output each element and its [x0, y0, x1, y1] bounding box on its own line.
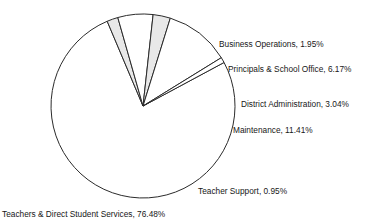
pie-label-teacher-support: Teacher Support, 0.95% — [198, 186, 288, 196]
pie-label-maintenance: Maintenance, 11.41% — [233, 125, 313, 135]
pie-label-teachers-direct-student-services: Teachers & Direct Student Services, 76.4… — [2, 209, 166, 219]
pie-chart-figure: Teachers & Direct Student Services, 76.4… — [0, 0, 382, 224]
pie-slices-group — [51, 14, 235, 198]
pie-label-principals-school-office: Principals & School Office, 6.17% — [228, 64, 352, 74]
pie-label-district-administration: District Administration, 3.04% — [241, 99, 350, 109]
pie-label-business-operations: Business Operations, 1.95% — [219, 39, 324, 49]
pie-chart-canvas: Teachers & Direct Student Services, 76.4… — [0, 0, 382, 224]
